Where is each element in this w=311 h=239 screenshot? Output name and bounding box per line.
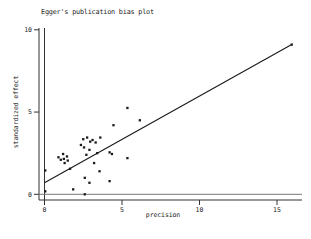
data-point xyxy=(126,157,128,159)
y-tick-label: 0 xyxy=(28,191,32,199)
data-point xyxy=(111,153,113,155)
data-point xyxy=(95,141,97,143)
fit-line-group xyxy=(45,45,292,183)
data-point xyxy=(72,188,74,190)
data-point xyxy=(83,146,85,148)
data-point xyxy=(88,182,90,184)
data-point xyxy=(84,193,86,195)
x-tick-label: 15 xyxy=(273,206,281,214)
egger-bias-plot: Egger's publication bias plot standardiz… xyxy=(0,0,311,239)
data-point xyxy=(91,139,93,141)
data-point xyxy=(86,136,88,138)
data-point xyxy=(84,177,86,179)
data-points-group xyxy=(44,43,293,195)
y-tick-label: 5 xyxy=(28,108,32,116)
data-point xyxy=(112,124,114,126)
data-point xyxy=(126,107,128,109)
data-point xyxy=(69,168,71,170)
data-point xyxy=(67,159,69,161)
data-point xyxy=(82,138,84,140)
data-point xyxy=(108,151,110,153)
data-point xyxy=(93,162,95,164)
x-tick-label: 0 xyxy=(43,206,47,214)
data-point xyxy=(63,158,65,160)
data-point xyxy=(44,190,46,192)
data-point xyxy=(89,141,91,143)
data-point xyxy=(88,149,90,151)
data-point xyxy=(98,170,100,172)
data-point xyxy=(64,162,66,164)
data-point xyxy=(108,180,110,182)
y-tick-label: 10 xyxy=(24,26,32,34)
scatter-plot-svg: 0510051015 xyxy=(0,0,311,239)
data-point xyxy=(99,136,101,138)
x-tick-label: 10 xyxy=(196,206,204,214)
x-tick-label: 5 xyxy=(120,206,124,214)
axes-group xyxy=(39,28,302,200)
data-point xyxy=(62,153,64,155)
ticks-group: 0510051015 xyxy=(24,26,281,213)
data-point xyxy=(96,152,98,154)
data-point xyxy=(57,156,59,158)
data-point xyxy=(291,43,293,45)
data-point xyxy=(85,154,87,156)
data-point xyxy=(80,144,82,146)
data-point xyxy=(66,155,68,157)
data-point xyxy=(60,159,62,161)
data-point xyxy=(44,169,46,171)
data-point xyxy=(139,119,141,121)
egger-regression-line xyxy=(45,45,292,183)
